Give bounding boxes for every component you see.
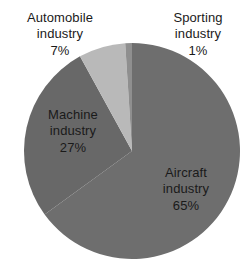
pie-chart: Automobile industry 7% Sporting industry… — [0, 0, 250, 276]
slice-label-aircraft-line1: Aircraft — [140, 165, 232, 181]
slice-label-aircraft: Aircraft industry 65% — [140, 165, 232, 214]
slice-label-aircraft-line2: industry — [140, 181, 232, 197]
slice-label-automobile-line2: industry — [6, 26, 114, 42]
slice-label-machine-line2: industry — [26, 123, 120, 139]
slice-value-aircraft: 65% — [140, 198, 232, 214]
slice-value-machine: 27% — [26, 140, 120, 156]
slice-value-sporting: 1% — [152, 43, 244, 59]
slice-label-sporting: Sporting industry 1% — [152, 10, 244, 59]
slice-label-sporting-line2: industry — [152, 26, 244, 42]
slice-label-machine: Machine industry 27% — [26, 107, 120, 156]
slice-label-sporting-line1: Sporting — [152, 10, 244, 26]
slice-value-automobile: 7% — [6, 43, 114, 59]
slice-label-machine-line1: Machine — [26, 107, 120, 123]
slice-label-automobile: Automobile industry 7% — [6, 10, 114, 59]
slice-label-automobile-line1: Automobile — [6, 10, 114, 26]
